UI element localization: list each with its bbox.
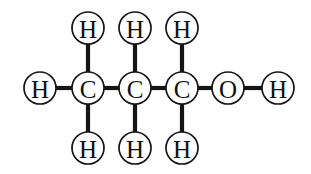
atom-c1-c: C [72, 72, 104, 104]
atom-label-h4: H [126, 16, 144, 43]
atom-label-h1: H [31, 76, 49, 103]
atom-h2-h: H [72, 12, 104, 44]
atom-label-h2: H [79, 16, 97, 43]
atom-label-h3: H [79, 136, 97, 163]
atom-label-h8: H [269, 76, 287, 103]
atom-h8-h: H [262, 72, 294, 104]
atom-h6-h: H [166, 12, 198, 44]
atom-h3-h: H [72, 132, 104, 164]
atom-label-h7: H [173, 136, 191, 163]
atom-c3-c: C [166, 72, 198, 104]
atom-h1-h: H [24, 72, 56, 104]
atom-label-c1: C [80, 76, 97, 103]
atom-h4-h: H [119, 12, 151, 44]
atom-label-h6: H [173, 16, 191, 43]
molecule-diagram-canvas: HHHCHHCHHCOH [0, 0, 311, 174]
atom-c2-c: C [119, 72, 151, 104]
atom-label-o1: O [219, 76, 237, 103]
molecule-structure-svg: HHHCHHCHHCOH [0, 0, 311, 174]
atom-o1-o: O [212, 72, 244, 104]
atom-h5-h: H [119, 132, 151, 164]
atom-label-c3: C [174, 76, 191, 103]
atom-h7-h: H [166, 132, 198, 164]
atom-label-h5: H [126, 136, 144, 163]
atom-label-c2: C [127, 76, 144, 103]
